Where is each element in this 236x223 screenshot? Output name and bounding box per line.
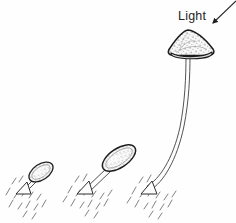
stage-1-group: [6, 158, 57, 219]
light-direction-arrow: [213, 1, 236, 23]
fungus-growth-diagram: Light: [0, 0, 236, 223]
stage-1-sporangium: [25, 158, 56, 186]
stage-3-stalk: [147, 56, 190, 190]
stage-2-group: [63, 140, 140, 218]
stage-3-sporangium: [168, 30, 214, 59]
figure-canvas: Light: [0, 0, 236, 223]
stage-2-base-wedge: [77, 181, 93, 194]
stage-3-group: [127, 30, 214, 219]
light-annotation: Light: [178, 1, 236, 23]
stage-2-substrate-hatching: [63, 174, 112, 218]
light-label: Light: [178, 9, 206, 23]
